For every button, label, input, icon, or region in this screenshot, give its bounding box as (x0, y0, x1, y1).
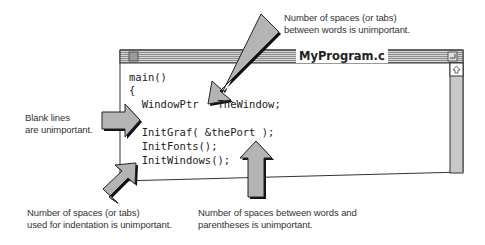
code-line: InitWindows(); (129, 153, 230, 167)
callout-parentheses: Number of spaces between words and paren… (198, 207, 357, 230)
callout-blank-lines: Blank lines are unimportant. (25, 112, 93, 135)
window-title: MyProgram.c (296, 49, 388, 63)
code-line: { (129, 83, 135, 97)
code-line: InitGraf( &thePort ); (129, 125, 274, 139)
callout-indentation: Number of spaces (or tabs) used for inde… (27, 207, 172, 230)
code-line: main() (129, 70, 167, 84)
arrow-indentation (103, 163, 138, 205)
callout-between-words: Number of spaces (or tabs) between words… (284, 12, 410, 35)
code-line: WindowPtr TheWindow; (129, 97, 281, 111)
code-line: InitFonts(); (129, 139, 218, 153)
